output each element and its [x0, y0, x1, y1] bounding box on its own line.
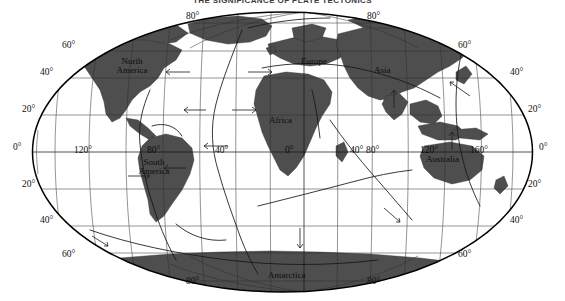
lat-label-left-20s: 20° — [22, 180, 35, 190]
continent-label-north-america: North America — [104, 57, 160, 76]
lat-label-left-60n: 60° — [62, 41, 75, 51]
lon-label-40e: 40° — [350, 146, 363, 156]
polar-label-bottom-right: 80° — [367, 277, 380, 287]
map-page: THE SIGNIFICANCE OF PLATE TECTONICS — [0, 0, 565, 301]
lat-label-right-60n: 60° — [458, 41, 471, 51]
lat-label-right-40n: 40° — [510, 68, 523, 78]
lat-label-right-20s: 20° — [528, 180, 541, 190]
lat-label-right-20n: 20° — [528, 105, 541, 115]
continent-label-europe: Europe — [301, 57, 327, 66]
lat-label-left-40n: 40° — [40, 68, 53, 78]
lon-label-80w: 80° — [147, 146, 160, 156]
land-siberia-north — [348, 14, 460, 30]
continent-label-australia: Australia — [426, 155, 459, 164]
lon-label-40w: 40° — [215, 146, 228, 156]
polar-label-bottom-left: 80° — [186, 277, 199, 287]
lat-label-left-0: 0° — [13, 143, 22, 153]
lat-label-right-0: 0° — [539, 143, 548, 153]
polar-label-top-left: 80° — [186, 12, 199, 22]
lat-label-left-20n: 20° — [22, 105, 35, 115]
continent-label-africa: Africa — [269, 116, 292, 125]
lat-label-left-60s: 60° — [62, 250, 75, 260]
lat-label-right-60s: 60° — [458, 250, 471, 260]
continent-label-antarctica: Antarctica — [268, 271, 305, 280]
lon-label-80e: 80° — [366, 146, 379, 156]
continent-label-asia: Asia — [374, 66, 391, 75]
lat-label-right-40s: 40° — [510, 216, 523, 226]
lat-label-left-40s: 40° — [40, 216, 53, 226]
lon-label-120w: 120° — [74, 146, 92, 156]
lon-label-160e: 160° — [470, 146, 488, 156]
continent-label-line2: America — [104, 66, 160, 75]
polar-label-top-right: 80° — [367, 12, 380, 22]
continent-label-south-america: South America — [125, 158, 183, 177]
continent-label-line2: America — [125, 167, 183, 176]
lon-label-0: 0° — [285, 146, 294, 156]
